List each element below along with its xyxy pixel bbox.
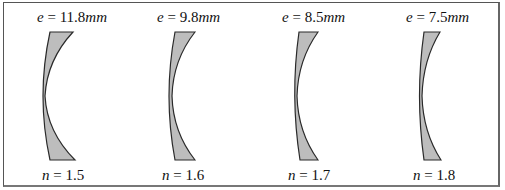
unit: mm <box>198 9 220 25</box>
unit: mm <box>447 9 469 25</box>
value: = 1.8 <box>421 167 456 183</box>
lens-1-thickness-label: e = 11.8mm <box>37 10 107 25</box>
lens-2-index-label: n = 1.6 <box>162 168 204 183</box>
var-e: e <box>157 9 164 25</box>
lens-4-index-label: n = 1.8 <box>413 168 455 183</box>
lens-diagram <box>0 0 505 190</box>
lens-4-shape <box>420 32 442 160</box>
lens-2-thickness-label: e = 9.8mm <box>157 10 220 25</box>
lens-1-shape <box>43 32 75 160</box>
value: = 9.8 <box>164 9 199 25</box>
var-e: e <box>282 9 289 25</box>
lens-3-thickness-label: e = 8.5mm <box>282 10 345 25</box>
value: = 8.5 <box>289 9 324 25</box>
lens-1-index-label: n = 1.5 <box>42 168 84 183</box>
value: = 11.8 <box>44 9 86 25</box>
lens-3-index-label: n = 1.7 <box>288 168 330 183</box>
value: = 1.6 <box>170 167 205 183</box>
unit: mm <box>85 9 107 25</box>
lens-3-shape <box>295 32 318 160</box>
lens-2-shape <box>169 32 195 160</box>
var-n: n <box>42 167 50 183</box>
unit: mm <box>323 9 345 25</box>
var-e: e <box>406 9 413 25</box>
value: = 1.5 <box>50 167 85 183</box>
var-n: n <box>413 167 421 183</box>
var-n: n <box>162 167 170 183</box>
var-e: e <box>37 9 44 25</box>
var-n: n <box>288 167 296 183</box>
lens-4-thickness-label: e = 7.5mm <box>406 10 469 25</box>
value: = 7.5 <box>413 9 448 25</box>
value: = 1.7 <box>296 167 331 183</box>
